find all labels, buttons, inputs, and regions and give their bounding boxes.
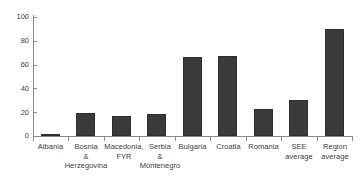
bar-albania xyxy=(41,134,60,136)
x-label-romania: Romania xyxy=(244,142,283,152)
bar-serbia xyxy=(147,114,166,136)
bar-chart: 100 80 60 40 20 0 Albania Bosnia & Herze… xyxy=(0,0,360,185)
y-tick-label-80: 80 xyxy=(0,37,29,45)
plot-area xyxy=(33,17,352,136)
x-axis-tick-2 xyxy=(104,136,105,141)
x-label-region-average: Region average xyxy=(315,142,355,161)
bar-macedonia xyxy=(112,116,131,136)
x-axis-tick-0 xyxy=(33,136,34,141)
x-axis-tick-8 xyxy=(317,136,318,141)
y-tick-label-60: 60 xyxy=(0,61,29,69)
x-axis-tick-7 xyxy=(281,136,282,141)
x-axis-tick-3 xyxy=(139,136,140,141)
x-axis-line xyxy=(33,136,352,137)
y-tick-label-0: 0 xyxy=(0,132,29,140)
x-label-croatia: Croatia xyxy=(209,142,248,152)
x-axis-tick-6 xyxy=(246,136,247,141)
y-tick-label-100: 100 xyxy=(0,13,29,21)
x-axis-tick-9 xyxy=(352,136,353,141)
bar-romania xyxy=(254,109,273,136)
x-axis-tick-4 xyxy=(175,136,176,141)
bar-bosnia xyxy=(76,113,95,136)
bar-croatia xyxy=(218,56,237,136)
x-label-see-average: SEE average xyxy=(281,142,317,161)
bar-bulgaria xyxy=(183,57,202,136)
x-axis-tick-5 xyxy=(210,136,211,141)
y-tick-label-40: 40 xyxy=(0,85,29,93)
x-axis-tick-1 xyxy=(68,136,69,141)
y-tick-label-20: 20 xyxy=(0,109,29,117)
bar-region-average xyxy=(325,29,344,136)
bar-see-average xyxy=(289,100,308,136)
x-label-bulgaria: Bulgaria xyxy=(173,142,212,152)
